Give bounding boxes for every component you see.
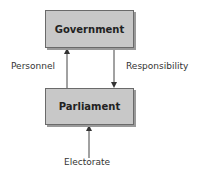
responsibility-label: Responsibility bbox=[126, 61, 188, 71]
government-label: Government bbox=[55, 24, 125, 35]
government-node: Government bbox=[45, 10, 134, 48]
parliament-node: Parliament bbox=[45, 88, 134, 125]
personnel-label: Personnel bbox=[11, 61, 55, 71]
electorate-label: Electorate bbox=[64, 157, 110, 167]
parliament-label: Parliament bbox=[59, 101, 120, 112]
